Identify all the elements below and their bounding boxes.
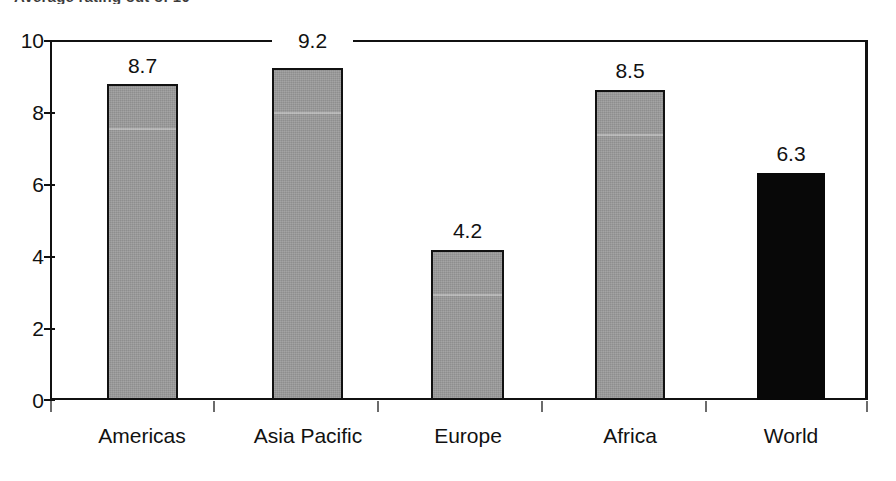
- category-label-africa: Africa: [570, 424, 690, 448]
- category-label-asia-pacific: Asia Pacific: [237, 424, 379, 448]
- value-label-asia-pacific: 9.2: [272, 30, 353, 51]
- y-tick-mark-6: [44, 184, 55, 186]
- y-tick-label-2: 2: [4, 318, 44, 339]
- y-tick-label-0: 0: [4, 390, 44, 411]
- bar-africa[interactable]: [595, 90, 665, 400]
- y-tick-label-10: 10: [4, 30, 44, 51]
- x-tick-mark-2: [377, 401, 379, 412]
- value-label-world: 6.3: [757, 143, 825, 164]
- y-tick-mark-10: [44, 40, 55, 42]
- x-tick-mark-5: [866, 401, 868, 412]
- x-tick-mark-3: [541, 401, 543, 412]
- bar-europe[interactable]: [431, 250, 504, 400]
- bar-americas[interactable]: [107, 84, 178, 400]
- category-label-europe: Europe: [408, 424, 528, 448]
- x-tick-mark-0: [50, 401, 52, 412]
- y-tick-mark-8: [44, 112, 55, 114]
- bar-chart: 10 8 6 4 2 0 8.7 9.2 4.2 8.5 6.3 America…: [0, 0, 896, 481]
- category-label-world: World: [731, 424, 851, 448]
- y-tick-label-4: 4: [4, 246, 44, 267]
- y-axis: 10 8 6 4 2 0: [0, 0, 44, 481]
- y-tick-mark-2: [44, 328, 55, 330]
- value-label-africa: 8.5: [595, 60, 665, 81]
- y-tick-label-6: 6: [4, 174, 44, 195]
- y-tick-label-8: 8: [4, 102, 44, 123]
- category-label-americas: Americas: [82, 424, 202, 448]
- value-label-americas: 8.7: [107, 55, 178, 76]
- bar-world[interactable]: [757, 173, 825, 400]
- value-label-europe: 4.2: [431, 220, 504, 241]
- x-tick-mark-4: [705, 401, 707, 412]
- bar-asia-pacific[interactable]: [272, 68, 343, 400]
- x-tick-mark-1: [213, 401, 215, 412]
- y-tick-mark-4: [44, 256, 55, 258]
